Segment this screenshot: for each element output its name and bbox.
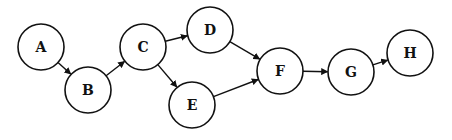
node-label: H	[403, 45, 416, 61]
edge-c-to-e	[158, 65, 177, 87]
node-c: C	[120, 24, 166, 70]
node-d: D	[187, 7, 233, 53]
node-label: B	[82, 82, 94, 98]
arrow-line	[165, 36, 187, 42]
node-h: H	[387, 30, 433, 76]
edge-b-to-c	[106, 62, 124, 76]
node-label: F	[275, 63, 285, 79]
directed-graph: ABCDEFGH	[0, 0, 452, 140]
node-g: G	[328, 49, 374, 95]
edge-a-to-b	[58, 63, 71, 75]
edge-c-to-d	[165, 36, 187, 42]
node-label: G	[345, 64, 357, 80]
node-label: E	[187, 97, 198, 113]
node-label: D	[204, 22, 216, 38]
edge-g-to-h	[373, 60, 388, 65]
node-label: C	[137, 39, 148, 55]
node-e: E	[169, 82, 215, 128]
arrow-line	[58, 63, 71, 75]
arrow-line	[158, 65, 177, 87]
node-label: A	[35, 39, 48, 55]
node-f: F	[257, 48, 303, 94]
edge-e-to-f	[214, 80, 259, 97]
node-b: B	[65, 67, 111, 113]
arrow-line	[214, 80, 259, 97]
edge-d-to-f	[230, 42, 260, 60]
node-a: A	[18, 24, 64, 70]
nodes-layer: ABCDEFGH	[18, 7, 433, 128]
arrow-line	[230, 42, 260, 60]
arrow-line	[106, 62, 124, 76]
arrow-line	[373, 60, 388, 65]
